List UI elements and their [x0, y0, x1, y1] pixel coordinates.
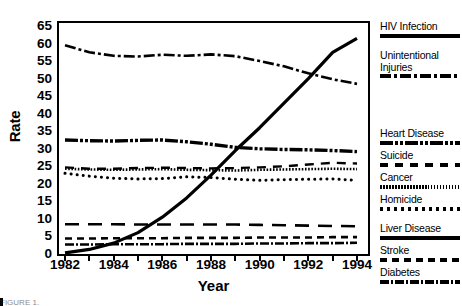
y-tick-label: 30 [26, 142, 52, 156]
legend-swatch [380, 34, 460, 38]
legend-label: Stroke [380, 245, 462, 257]
y-tick-label: 40 [26, 107, 52, 121]
legend-label: Unintentional Injuries [380, 50, 462, 73]
legend-item-suicide: Suicide [380, 150, 462, 167]
legend-label: Homicide [380, 194, 462, 206]
legend-item-liver-disease: Liver Disease [380, 223, 462, 240]
legend-swatch [380, 74, 460, 78]
legend-label: Suicide [380, 150, 462, 162]
x-tick-mark [234, 256, 236, 261]
figure-caption: FIGURE 1. [0, 298, 462, 306]
x-tick-mark [161, 256, 163, 261]
series-line-liver-disease [65, 224, 357, 226]
legend-label: Liver Disease [380, 223, 462, 235]
y-tick-label: 60 [26, 37, 52, 51]
legend-swatch [380, 236, 460, 240]
chart-lines [59, 23, 368, 254]
series-line-heart-disease [65, 140, 357, 152]
y-tick-label: 15 [26, 194, 52, 208]
x-tick-mark [210, 256, 212, 261]
legend-swatch [380, 141, 460, 145]
series-line-unintentional-injuries [65, 45, 357, 84]
x-tick-mark [259, 256, 261, 261]
figure-container: Rate 05101520253035404550556065 19821984… [0, 0, 462, 306]
series-line-stroke [65, 237, 357, 238]
legend-item-stroke: Stroke [380, 245, 462, 262]
x-tick-mark [356, 256, 358, 261]
x-tick-mark [64, 256, 66, 261]
legend-swatch [380, 207, 460, 211]
y-tick-label: 25 [26, 159, 52, 173]
legend-label: Heart Disease [380, 128, 462, 140]
y-tick-label: 50 [26, 72, 52, 86]
y-tick-label: 5 [26, 229, 52, 243]
y-tick-label: 65 [26, 19, 52, 33]
x-tick-mark [137, 256, 139, 261]
legend-label: HIV Infection [380, 21, 462, 33]
legend-swatch [380, 280, 460, 284]
legend-label: Cancer [380, 172, 462, 184]
x-tick-mark [283, 256, 285, 261]
legend-label: Diabetes [380, 267, 462, 279]
series-line-suicide [65, 163, 357, 169]
x-tick-mark [307, 256, 309, 261]
x-tick-mark [332, 256, 334, 261]
legend-item-homicide: Homicide [380, 194, 462, 211]
legend-swatch [380, 185, 460, 189]
legend-item-heart-disease: Heart Disease [380, 128, 462, 145]
x-tick-mark [113, 256, 115, 261]
legend-item-cancer: Cancer [380, 172, 462, 189]
y-tick-label: 10 [26, 212, 52, 226]
x-tick-mark [186, 256, 188, 261]
y-axis-label: Rate [6, 92, 23, 162]
y-tick-label: 55 [26, 54, 52, 68]
plot-area [57, 21, 370, 256]
y-tick-label: 45 [26, 89, 52, 103]
legend-item-unintentional-injuries: Unintentional Injuries [380, 50, 462, 78]
legend-swatch [380, 163, 460, 167]
y-tick-label: 35 [26, 124, 52, 138]
chart-legend: HIV InfectionUnintentional InjuriesHeart… [380, 21, 462, 271]
x-axis-label: Year [57, 277, 370, 294]
y-tick-label: 20 [26, 177, 52, 191]
legend-item-diabetes: Diabetes [380, 267, 462, 284]
legend-item-hiv-infection: HIV Infection [380, 21, 462, 38]
x-tick-mark [88, 256, 90, 261]
legend-swatch [380, 258, 460, 262]
